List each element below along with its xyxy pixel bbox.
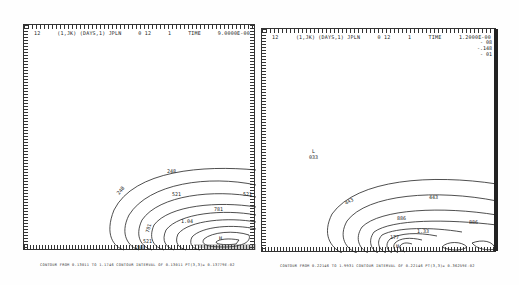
contour-label: 443	[429, 194, 438, 200]
contour-label: 521	[243, 191, 252, 197]
contour-label: 177	[390, 234, 399, 240]
left-plot-footer: CONTOUR FROM 0.13011 TO 1.1746 CONTOUR I…	[40, 263, 235, 267]
contour-label: 1.04	[181, 218, 193, 224]
contour-label: 443	[344, 196, 355, 206]
contour-label: 886	[469, 219, 478, 225]
contour-label: 248	[115, 185, 125, 196]
right-plot-footer: CONTOUR FROM 0.22146 TO 1.9931 CONTOUR I…	[280, 264, 475, 268]
contour-label: 886	[397, 215, 406, 221]
contour-label: 781	[144, 223, 152, 233]
left-contours: 248 248 521 521 781 1.04 H 781 521 248	[24, 25, 256, 251]
high-marker: H	[396, 243, 399, 249]
contour-label: 248	[135, 244, 144, 250]
right-contour-plot: 12 (1,JK) (DAYS,1) JPLN 0 12 1 TIME 1.20…	[258, 0, 519, 285]
low-value: 033	[309, 154, 318, 160]
contour-label: 521	[143, 238, 152, 244]
left-plot-frame: 12 (1,JK) (DAYS,1) JPLN 0 12 1 TIME 9.00…	[23, 24, 255, 250]
contour-label: 521	[172, 191, 181, 197]
left-contour-plot: 12 (1,JK) (DAYS,1) JPLN 0 12 1 TIME 9.00…	[0, 0, 260, 285]
contour-label: 781	[214, 206, 223, 212]
right-plot-frame: 12 (1,JK) (DAYS,1) JPLN 0 12 1 TIME 1.20…	[261, 28, 496, 252]
high-marker: H	[219, 235, 222, 241]
right-contours: L 033 443 443 886 886 1.33 177 H	[262, 29, 497, 253]
contour-label: 248	[167, 168, 176, 174]
contour-label: 1.33	[417, 228, 429, 234]
